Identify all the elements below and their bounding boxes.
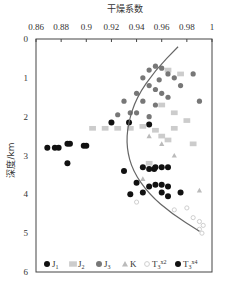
y-tick-label: 2 xyxy=(24,112,29,122)
legend-item: J2 xyxy=(69,259,84,270)
legend-label: K xyxy=(130,259,137,269)
legend-item: J1 xyxy=(44,259,59,270)
x-tick-label: 0.9 xyxy=(81,22,93,32)
y-tick-label: 6 xyxy=(24,267,29,277)
data-points xyxy=(44,64,205,236)
legend-label: J2 xyxy=(78,259,85,270)
y-axis-ticks: 0123456 xyxy=(24,34,29,277)
legend-label: T3x4 xyxy=(183,259,198,270)
x-tick-label: 0.86 xyxy=(28,22,44,32)
x-tick-label: 0.96 xyxy=(154,22,170,32)
chart-title: 干燥系数 xyxy=(107,3,143,14)
x-tick-label: 0.92 xyxy=(104,22,120,32)
y-tick-label: 1 xyxy=(24,73,29,83)
x-tick-label: 0.88 xyxy=(53,22,69,32)
legend-item: T3x2 xyxy=(145,259,167,270)
plot-frame xyxy=(36,39,212,272)
y-tick-label: 3 xyxy=(24,151,29,161)
legend: J1J2J3KT3x2T3x4 xyxy=(44,259,198,270)
y-tick-label: 5 xyxy=(24,228,29,238)
legend-label: J1 xyxy=(52,259,59,270)
legend-item: K xyxy=(122,259,137,269)
x-tick-label: 1 xyxy=(210,22,215,32)
y-tick-label: 0 xyxy=(24,34,29,44)
y-axis-label: 深度/km xyxy=(5,142,16,177)
legend-item: J3 xyxy=(96,259,111,270)
legend-item: T3x4 xyxy=(175,259,198,270)
legend-label: J3 xyxy=(104,259,111,270)
x-tick-label: 0.94 xyxy=(129,22,145,32)
y-tick-label: 4 xyxy=(24,189,29,199)
x-tick-label: 0.98 xyxy=(179,22,195,32)
legend-label: T3x2 xyxy=(152,259,167,270)
dryness-depth-scatter-chart: 干燥系数 0.860.880.90.920.940.960.981 012345… xyxy=(0,0,227,290)
